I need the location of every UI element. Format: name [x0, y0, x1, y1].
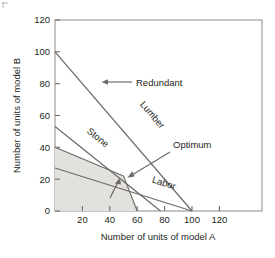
y-tick-label-0: 0	[45, 205, 50, 216]
x-tick-label-120: 120	[211, 214, 227, 225]
redundant-label: Redundant	[136, 77, 183, 88]
x-tick-label-100: 100	[184, 214, 200, 225]
y-axis-title: Number of units of model B	[11, 58, 22, 173]
y-tick-label-60: 60	[39, 110, 50, 121]
x-tick-label-60: 60	[132, 214, 143, 225]
x-tick-label-80: 80	[159, 214, 170, 225]
chart-svg: 0 20 40 60 80 100 120 20 40 60 80 100 12…	[0, 0, 275, 258]
y-tick-label-120: 120	[34, 14, 50, 25]
y-tick-label-40: 40	[39, 142, 50, 153]
x-tick-label-20: 20	[77, 214, 88, 225]
linear-programming-chart: 0 20 40 60 80 100 120 20 40 60 80 100 12…	[0, 0, 275, 258]
y-tick-label-100: 100	[34, 46, 50, 57]
x-axis-title: Number of units of model A	[101, 231, 216, 242]
y-tick-label-80: 80	[39, 78, 50, 89]
optimum-label: Optimum	[173, 139, 212, 150]
x-tick-label-40: 40	[105, 214, 116, 225]
y-tick-label-20: 20	[39, 174, 50, 185]
